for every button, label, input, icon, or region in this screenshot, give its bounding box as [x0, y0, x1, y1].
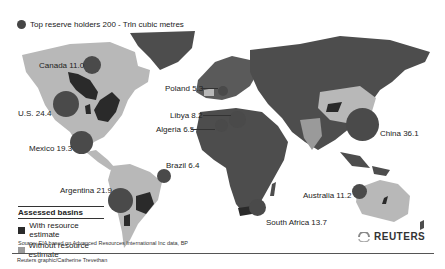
bubble-brazil — [157, 169, 171, 183]
basins-legend-title: Assessed basins — [18, 206, 104, 219]
swatch-with-estimate — [18, 227, 25, 234]
label-poland: Poland 5.3 — [165, 84, 203, 93]
label-canada: Canada 11.0 — [39, 61, 84, 70]
bubble-legend-icon — [17, 20, 26, 29]
reuters-brand: REUTERS — [374, 231, 425, 242]
bubble-china — [346, 108, 379, 141]
label-south-africa: South Africa 13.7 — [266, 218, 327, 227]
label-australia: Australia 11.2 — [303, 191, 351, 200]
label-argentina: Argentina 21.9 — [60, 186, 112, 195]
label-mexico: Mexico 19.3 — [29, 144, 72, 153]
basins-legend: Assessed basins With resource estimate W… — [18, 206, 104, 259]
basins-legend-item: With resource estimate — [18, 221, 104, 239]
leader-libya — [203, 115, 231, 116]
label-us: U.S. 24.4 — [18, 109, 51, 118]
bubble-algeria — [215, 119, 228, 132]
leader-algeria — [191, 129, 215, 130]
bubble-mexico — [70, 131, 93, 154]
bubble-libya — [229, 111, 246, 128]
label-libya: Libya 8.2 — [170, 111, 202, 120]
label-china: China 36.1 — [380, 129, 419, 138]
graphic-credit: Reuters graphic/Catherine Trevethan — [17, 257, 107, 263]
reuters-dots-icon — [357, 232, 371, 242]
label-brazil: Brazil 6.4 — [166, 161, 199, 170]
greenland-shape — [130, 31, 195, 70]
bubble-legend-label: Top reserve holders 200 - Trln cubic met… — [30, 20, 184, 29]
bubble-south-africa — [249, 199, 266, 216]
bubble-poland — [218, 86, 228, 96]
bubble-australia — [352, 184, 367, 199]
label-algeria: Algeria 6.5 — [156, 125, 194, 134]
leader-poland — [202, 88, 218, 89]
bubble-us — [53, 91, 79, 117]
bubble-legend: Top reserve holders 200 - Trln cubic met… — [17, 20, 184, 29]
basins-legend-item-label: With resource estimate — [29, 221, 104, 239]
bubble-canada — [83, 56, 101, 74]
footer-divider — [12, 253, 434, 254]
source-note: Source: EIA based on Advanced Resources … — [18, 240, 188, 246]
reuters-logo: REUTERS — [357, 231, 425, 242]
